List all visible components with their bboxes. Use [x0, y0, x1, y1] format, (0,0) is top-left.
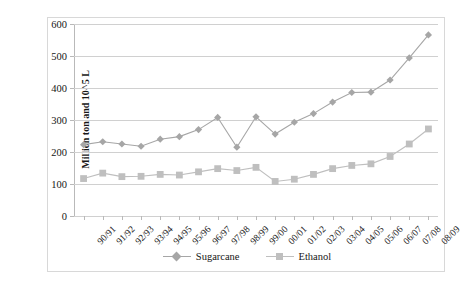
data-point-ethanol-92-93	[118, 173, 125, 180]
y-tick-label: 200	[51, 147, 67, 158]
data-point-ethanol-94-95	[157, 171, 164, 178]
x-tick-label: 08/09	[440, 224, 460, 246]
chart-legend: SugarcaneEthanol	[48, 251, 446, 262]
x-tick-mark	[141, 216, 142, 220]
x-tick-label: 07/08	[421, 224, 443, 246]
chart-plot-frame: Million ton and 10^5 L 01002003004005006…	[47, 17, 445, 272]
data-point-ethanol-08-09	[425, 126, 432, 133]
y-tick-label: 400	[51, 83, 67, 94]
legend-label: Ethanol	[299, 251, 332, 262]
x-tick-mark	[313, 216, 314, 220]
plot-area: 0100200300400500600 90/9191/9292/9393/94…	[74, 24, 438, 216]
y-tick-label: 500	[51, 51, 67, 62]
data-point-sugarcane-01-02	[291, 119, 298, 126]
chart-figure: Million ton and 10^5 L 01002003004005006…	[0, 0, 460, 290]
x-tick-mark	[218, 216, 219, 220]
data-point-sugarcane-04-05	[348, 89, 355, 96]
data-point-ethanol-91-92	[99, 170, 106, 177]
x-tick-mark	[84, 216, 85, 220]
x-tick-label: 90/91	[95, 224, 117, 246]
x-tick-mark	[275, 216, 276, 220]
data-point-sugarcane-94-95	[157, 136, 164, 143]
y-tick-label: 100	[51, 179, 67, 190]
x-tick-label: 01/02	[306, 224, 328, 246]
data-point-sugarcane-95-96	[176, 133, 183, 140]
x-tick-mark	[256, 216, 257, 220]
x-tick-label: 94/95	[172, 224, 194, 246]
data-point-ethanol-98-99	[233, 167, 240, 174]
x-tick-mark	[103, 216, 104, 220]
data-point-sugarcane-96-97	[195, 126, 202, 133]
x-tick-mark	[428, 216, 429, 220]
x-tick-mark	[409, 216, 410, 220]
x-tick-mark	[179, 216, 180, 220]
x-tick-label: 06/07	[401, 224, 423, 246]
legend-label: Sugarcane	[196, 251, 240, 262]
data-point-ethanol-93-94	[138, 173, 145, 180]
data-point-sugarcane-93-94	[137, 143, 144, 150]
x-tick-mark	[333, 216, 334, 220]
data-point-sugarcane-92-93	[118, 140, 125, 147]
data-point-ethanol-02-03	[310, 171, 317, 178]
x-tick-mark	[390, 216, 391, 220]
x-tick-label: 96/97	[210, 224, 232, 246]
legend-key-square-icon	[266, 252, 294, 262]
x-tick-label: 99/00	[267, 224, 289, 246]
data-point-ethanol-05-06	[368, 160, 375, 167]
data-point-ethanol-90-91	[80, 175, 87, 182]
series-line-sugarcane	[84, 35, 429, 147]
y-tick-label: 0	[62, 211, 67, 222]
y-tick-label: 300	[51, 115, 67, 126]
series-layer	[74, 24, 438, 216]
x-tick-label: 97/98	[229, 224, 251, 246]
data-point-sugarcane-05-06	[367, 89, 374, 96]
x-tick-mark	[160, 216, 161, 220]
x-tick-mark	[294, 216, 295, 220]
x-tick-label: 98/99	[248, 224, 270, 246]
data-point-ethanol-04-05	[348, 162, 355, 169]
x-tick-mark	[371, 216, 372, 220]
data-point-sugarcane-91-92	[99, 138, 106, 145]
legend-item-ethanol[interactable]: Ethanol	[266, 251, 332, 262]
data-point-ethanol-00-01	[272, 178, 279, 185]
x-tick-label: 95/96	[191, 224, 213, 246]
data-point-sugarcane-03-04	[329, 98, 336, 105]
data-point-ethanol-99-00	[253, 164, 260, 171]
data-point-ethanol-07-08	[406, 141, 413, 148]
data-point-ethanol-03-04	[329, 165, 336, 172]
x-tick-label: 93/94	[152, 224, 174, 246]
data-point-sugarcane-02-03	[310, 110, 317, 117]
x-tick-label: 92/93	[133, 224, 155, 246]
x-tick-label: 02/03	[325, 224, 347, 246]
data-point-ethanol-97-98	[214, 165, 221, 172]
x-tick-label: 03/04	[344, 224, 366, 246]
data-point-sugarcane-98-99	[233, 144, 240, 151]
x-tick-mark	[352, 216, 353, 220]
x-tick-label: 00/01	[286, 224, 308, 246]
data-point-sugarcane-90-91	[80, 141, 87, 148]
y-tick-mark-0	[70, 216, 74, 217]
data-point-sugarcane-97-98	[214, 114, 221, 121]
legend-key-diamond-icon	[163, 252, 191, 262]
y-tick-label: 600	[51, 19, 67, 30]
legend-item-sugarcane[interactable]: Sugarcane	[163, 251, 240, 262]
x-tick-label: 04/05	[363, 224, 385, 246]
x-tick-mark	[122, 216, 123, 220]
x-tick-mark	[199, 216, 200, 220]
x-tick-mark	[237, 216, 238, 220]
data-point-ethanol-96-97	[195, 168, 202, 175]
data-point-ethanol-01-02	[291, 176, 298, 183]
data-point-ethanol-95-96	[176, 172, 183, 179]
x-tick-label: 05/06	[382, 224, 404, 246]
x-tick-label: 91/92	[114, 224, 136, 246]
data-point-ethanol-06-07	[387, 153, 394, 160]
series-line-ethanol	[84, 129, 429, 181]
